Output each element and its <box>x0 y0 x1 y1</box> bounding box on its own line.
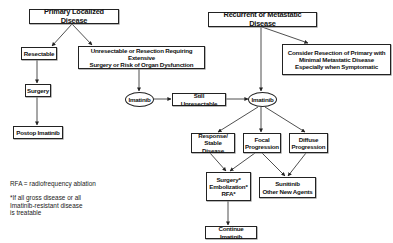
footnote-line2: Imatinib-resistant disease <box>10 202 82 210</box>
note-footnote: *If all gross disease or all Imatinib-re… <box>10 194 82 217</box>
node-continue-imatinib: Continue Imatinib <box>205 226 257 239</box>
node-imatinib-left: Imatinib <box>125 92 154 107</box>
node-sunitinib: Sunitinib Other New Agents <box>259 177 316 198</box>
node-label: Primary Localized Disease <box>32 8 116 25</box>
node-label-line1: Surgery* <box>216 176 240 183</box>
node-label-line2: Progression <box>245 143 279 150</box>
node-recurrent-metastatic-disease: Recurrent or Metastatic Disease <box>208 12 317 27</box>
node-label-line1: Sunitinib <box>275 180 300 187</box>
node-label-line2: Stable Disease <box>194 139 232 153</box>
node-primary-localized-disease: Primary Localized Disease <box>29 9 119 24</box>
node-response-stable-disease: Response/ Stable Disease <box>191 133 235 153</box>
note-rfa-definition: RFA = radiofrequency ablation <box>10 180 96 188</box>
node-label: Imatinib <box>251 96 273 103</box>
note-text: RFA = radiofrequency ablation <box>10 180 96 187</box>
node-diffuse-progression: Diffuse Progression <box>289 133 328 153</box>
node-label-line3: RFA* <box>222 190 236 197</box>
node-label-line2: Other New Agents <box>262 188 312 195</box>
node-unresectable: Unresectable or Resection Requiring Exte… <box>78 46 205 69</box>
node-consider-resection: Consider Resection of Primary with Minim… <box>282 44 391 75</box>
node-label: Postop Imatinib <box>16 129 59 136</box>
node-label: Surgery <box>27 87 49 94</box>
node-label: Resectable <box>24 50 55 57</box>
node-surgery: Surgery <box>25 84 51 97</box>
node-label-line1: Response/ <box>198 132 228 139</box>
node-label-line2: Embolization* <box>209 183 247 190</box>
node-label: Continue Imatinib <box>208 225 254 239</box>
node-imatinib-right: Imatinib <box>248 92 277 107</box>
node-label-line2: Minimal Metastatic Disease <box>299 56 374 63</box>
footnote-line1: *If all gross disease or all <box>10 194 82 202</box>
node-still-unresectable: Still Unresectable <box>172 93 226 106</box>
node-postop-imatinib: Postop Imatinib <box>13 126 63 139</box>
footnote-line3: is treatable <box>10 209 82 217</box>
node-label-line2: Surgery or Risk of Organ Dysfunction <box>90 61 194 68</box>
node-label-line1: Consider Resection of Primary with <box>288 49 386 56</box>
node-resectable: Resectable <box>21 47 57 60</box>
node-label-line1: Unresectable or Resection Requiring Exte… <box>81 47 202 61</box>
node-label: Imatinib <box>128 96 150 103</box>
node-label-line2: Progression <box>292 143 326 150</box>
node-label-line1: Diffuse <box>299 136 319 143</box>
node-focal-progression: Focal Progression <box>243 133 281 153</box>
node-label-line1: Focal <box>254 136 269 143</box>
node-label-line3: Especially when Symptomatic <box>295 63 378 70</box>
node-label: Recurrent or Metastatic Disease <box>211 11 314 28</box>
node-label: Still Unresectable <box>175 92 223 106</box>
node-surgery-embolization-rfa: Surgery* Embolization* RFA* <box>206 172 251 201</box>
